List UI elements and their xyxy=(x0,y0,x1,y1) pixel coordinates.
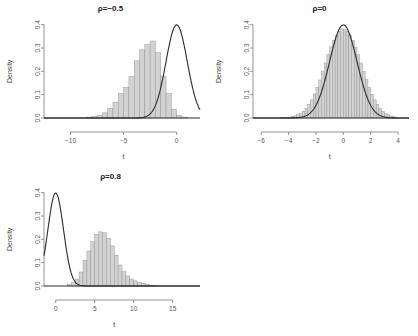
histogram-bar xyxy=(343,29,346,118)
y-tick-label: 0.0 xyxy=(34,281,41,290)
histogram-bar xyxy=(122,272,126,286)
histogram-bar xyxy=(341,29,344,118)
histogram-bar xyxy=(110,246,114,286)
y-axis-label: Density xyxy=(215,59,223,83)
y-tick-label: 0.2 xyxy=(34,66,41,75)
x-tick-label: −10 xyxy=(65,137,76,144)
histogram-bar xyxy=(352,40,355,118)
y-axis-label: Density xyxy=(6,227,14,251)
y-tick-label: 0.0 xyxy=(34,113,41,122)
y-tick-label: 0.3 xyxy=(34,43,41,52)
x-tick-label: 0 xyxy=(175,137,179,144)
y-tick-label: 0.1 xyxy=(34,258,41,267)
y-tick-label: 0.1 xyxy=(34,90,41,99)
panel-rho-neg05: ρ=−0.50.00.10.20.30.4Density−10−50t xyxy=(0,0,209,168)
histogram-bar xyxy=(138,282,142,286)
x-tick-label: 0 xyxy=(342,137,346,144)
histogram-bar xyxy=(108,108,113,118)
chart-panel: ρ=−0.50.00.10.20.30.4Density−10−50t xyxy=(0,0,209,168)
histogram-bar xyxy=(102,113,107,118)
histogram-bar xyxy=(106,238,110,286)
y-tick-label: 0.4 xyxy=(34,188,41,197)
x-tick-label: 2 xyxy=(369,137,373,144)
histogram-bar xyxy=(99,232,103,286)
histogram-bar xyxy=(308,104,311,118)
histogram-bar xyxy=(332,40,335,118)
panel-rho-0: ρ=00.00.10.20.30.4Density−6−4−2024t xyxy=(209,0,418,168)
chart-panel: ρ=0.80.00.10.20.30.4Density051015t xyxy=(0,168,209,336)
histogram-bar xyxy=(321,72,324,118)
x-tick-label: 5 xyxy=(93,305,97,312)
histogram-bar xyxy=(118,94,123,119)
histogram-bar xyxy=(79,272,83,286)
histogram-bar xyxy=(95,234,99,286)
y-tick-label: 0.0 xyxy=(243,113,250,122)
x-tick-label: −4 xyxy=(285,137,293,144)
histogram-bar xyxy=(335,35,338,118)
histogram-bar xyxy=(130,279,134,286)
histogram-bar xyxy=(118,265,122,286)
x-tick-label: −6 xyxy=(257,137,265,144)
histogram-bars xyxy=(67,232,157,286)
empty-panel xyxy=(209,168,418,336)
panel-title: ρ=0 xyxy=(312,4,327,13)
x-tick-label: 4 xyxy=(396,137,400,144)
histogram-bar xyxy=(140,50,145,118)
histogram-bar xyxy=(373,100,376,118)
x-axis-label: t xyxy=(329,153,331,160)
histogram-bar xyxy=(103,233,107,286)
histogram-bar xyxy=(362,71,365,118)
figure-panel-grid: ρ=−0.50.00.10.20.30.4Density−10−50t ρ=00… xyxy=(0,0,418,336)
x-tick-label: 0 xyxy=(54,305,58,312)
chart-panel: ρ=00.00.10.20.30.4Density−6−4−2024t xyxy=(209,0,418,168)
histogram-bar xyxy=(360,63,363,118)
x-axis-label: t xyxy=(123,153,125,160)
histogram-bar xyxy=(126,276,130,286)
histogram-bar xyxy=(346,31,349,118)
y-tick-label: 0.1 xyxy=(243,90,250,99)
y-tick-label: 0.3 xyxy=(243,43,250,52)
x-axis-label: t xyxy=(113,321,115,328)
y-tick-label: 0.4 xyxy=(243,20,250,29)
y-axis-label: Density xyxy=(6,59,14,83)
y-tick-label: 0.3 xyxy=(34,211,41,220)
histogram-bar xyxy=(134,61,139,118)
histogram-bar xyxy=(129,76,134,118)
x-tick-label: −2 xyxy=(312,137,320,144)
panel-title: ρ=−0.5 xyxy=(98,4,124,13)
histogram-bar xyxy=(376,105,379,118)
histogram-bars xyxy=(280,29,398,118)
histogram-bars xyxy=(86,41,187,118)
histogram-bar xyxy=(134,281,138,286)
histogram-bar xyxy=(124,87,129,118)
histogram-bar xyxy=(91,242,95,286)
histogram-bar xyxy=(145,45,150,119)
histogram-bar xyxy=(114,255,118,286)
histogram-bar xyxy=(113,102,118,118)
histogram-bar xyxy=(338,31,341,118)
histogram-bar xyxy=(171,109,176,118)
x-tick-label: −5 xyxy=(120,137,128,144)
histogram-bar xyxy=(87,251,91,286)
panel-title: ρ=0.8 xyxy=(100,172,121,181)
histogram-bar xyxy=(166,94,171,119)
histogram-bar xyxy=(155,53,160,118)
histogram-bar xyxy=(83,260,87,286)
x-tick-label: 10 xyxy=(130,305,138,312)
histogram-bar xyxy=(349,35,352,118)
panel-rho-08: ρ=0.80.00.10.20.30.4Density051015t xyxy=(0,168,209,336)
y-tick-label: 0.2 xyxy=(243,66,250,75)
x-tick-label: 15 xyxy=(169,305,177,312)
y-tick-label: 0.4 xyxy=(34,20,41,29)
y-tick-label: 0.2 xyxy=(34,234,41,243)
histogram-bar xyxy=(324,63,327,118)
histogram-bar xyxy=(310,100,313,118)
